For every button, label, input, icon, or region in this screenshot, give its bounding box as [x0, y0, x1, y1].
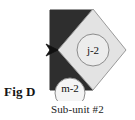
node-label-j2: j-2 — [86, 44, 99, 56]
node-label-m2: m-2 — [61, 82, 79, 94]
figure-label: Fig D — [4, 84, 36, 100]
figure-diagram: j-2 m-2 — [0, 0, 135, 120]
figure-caption: Sub-unit #2 — [51, 103, 104, 115]
figure-d-container: j-2 m-2 Fig D Sub-unit #2 — [0, 0, 135, 120]
